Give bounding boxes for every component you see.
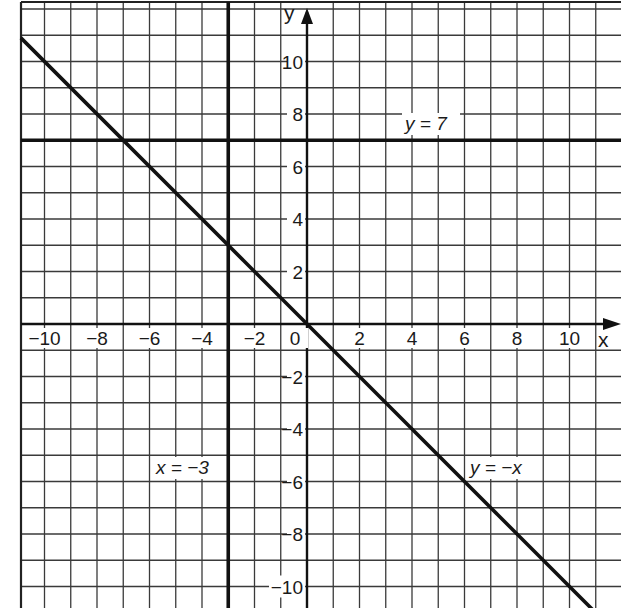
y-tick-label: 8 [292, 104, 303, 125]
y-axis-arrow-icon [301, 8, 313, 24]
x-tick-label: −6 [139, 328, 161, 349]
x-tick-label: 10 [559, 328, 580, 349]
x-tick-label: −2 [244, 328, 266, 349]
equation-label-x-equals-minus-3: x = −3 [155, 457, 209, 478]
x-tick-label: 4 [407, 328, 418, 349]
x-axis-label: x [598, 328, 609, 351]
x-tick-label: 2 [354, 328, 365, 349]
y-tick-label: 4 [292, 209, 303, 230]
plotted-lines [21, 2, 621, 608]
y-tick-label: −6 [281, 472, 303, 493]
y-tick-label: −2 [281, 367, 303, 388]
x-tick-label: −10 [28, 328, 60, 349]
equation-label-y-equals-7: y = 7 [403, 113, 448, 134]
equation-label-y-equals-minus-x: y = −x [468, 457, 523, 478]
coordinate-grid-chart: −10−8−6−4−20246810108642−2−4−6−8−10 x y … [0, 0, 621, 608]
y-tick-label: −8 [281, 524, 303, 545]
x-tick-label: 0 [290, 328, 301, 349]
x-tick-label: 8 [512, 328, 523, 349]
y-axis-label: y [284, 1, 295, 24]
y-tick-label: −4 [281, 419, 303, 440]
x-tick-label: 6 [459, 328, 470, 349]
y-tick-label: −10 [271, 577, 303, 598]
x-tick-label: −8 [86, 328, 108, 349]
grid-lines [21, 2, 621, 608]
y-tick-label: 2 [292, 262, 303, 283]
x-tick-label: −4 [191, 328, 213, 349]
axes [21, 8, 621, 608]
y-tick-label: 10 [282, 52, 303, 73]
y-tick-label: 6 [292, 157, 303, 178]
